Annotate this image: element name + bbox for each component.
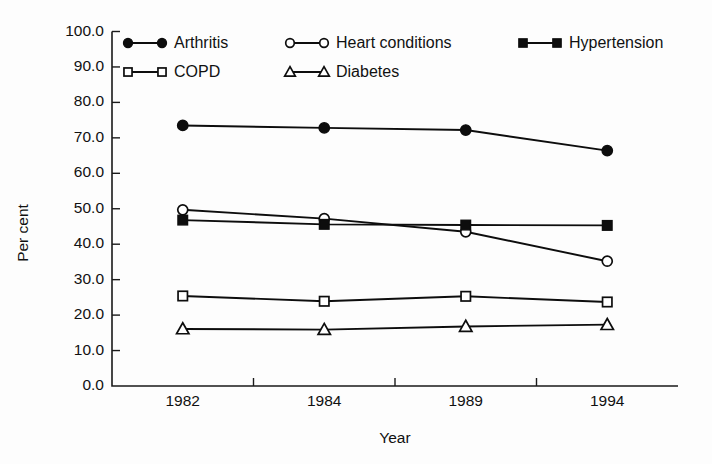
- y-axis-ticks: [112, 32, 120, 351]
- marker-open-square: [158, 68, 166, 76]
- x-axis-title: Year: [379, 429, 410, 446]
- y-tick-label: 60.0: [74, 163, 105, 180]
- legend-item-hypertension[interactable]: Hypertension: [519, 34, 663, 51]
- marker-filled-square: [319, 220, 329, 230]
- legend-label: Diabetes: [336, 63, 399, 80]
- y-axis-title: Per cent: [14, 203, 31, 261]
- marker-filled-square: [553, 39, 561, 47]
- marker-filled-circle: [319, 123, 329, 133]
- y-tick-label: 10.0: [74, 341, 105, 358]
- series-copd: [178, 291, 612, 306]
- marker-filled-circle: [602, 145, 612, 155]
- series-heart-conditions: [178, 205, 613, 266]
- line-chart-canvas: 0.010.020.030.040.050.060.070.080.090.01…: [0, 0, 712, 464]
- y-tick-label: 20.0: [74, 305, 105, 322]
- marker-filled-circle: [461, 125, 471, 135]
- marker-open-circle: [178, 205, 188, 215]
- x-axis-tick-labels: 1982198419891994: [166, 392, 625, 409]
- legend-item-diabetes[interactable]: Diabetes: [285, 63, 399, 80]
- axis-lines: [112, 32, 678, 387]
- chart-figure: 0.010.020.030.040.050.060.070.080.090.01…: [0, 0, 712, 464]
- legend-label: Arthritis: [174, 34, 228, 51]
- series-diabetes: [177, 318, 614, 334]
- marker-filled-square: [602, 221, 612, 231]
- legend-item-copd[interactable]: COPD: [124, 63, 220, 80]
- legend-item-arthritis[interactable]: Arthritis: [124, 34, 229, 51]
- marker-open-circle: [602, 256, 612, 266]
- legend-item-heart-conditions[interactable]: Heart conditions: [286, 34, 452, 51]
- legend-label: Hypertension: [569, 34, 663, 51]
- marker-filled-square: [519, 39, 527, 47]
- series-arthritis: [178, 120, 613, 156]
- y-tick-label: 0.0: [82, 376, 104, 393]
- x-tick-label: 1982: [166, 392, 200, 409]
- y-tick-label: 40.0: [74, 234, 105, 251]
- x-tick-label: 1984: [307, 392, 342, 409]
- y-axis-tick-labels: 0.010.020.030.040.050.060.070.080.090.01…: [65, 22, 104, 394]
- series-hypertension: [178, 215, 612, 230]
- chart-legend: ArthritisHeart conditionsHypertensionCOP…: [124, 34, 664, 80]
- x-tick-label: 1989: [449, 392, 483, 409]
- marker-open-square: [603, 297, 612, 306]
- series-polyline: [183, 125, 608, 150]
- y-tick-label: 100.0: [65, 22, 104, 39]
- y-tick-label: 70.0: [74, 128, 105, 145]
- y-tick-label: 50.0: [74, 199, 105, 216]
- x-axis-ticks: [254, 378, 537, 386]
- marker-open-square: [178, 291, 187, 300]
- marker-open-square: [320, 297, 329, 306]
- marker-open-square: [124, 68, 132, 76]
- marker-filled-circle: [178, 120, 188, 130]
- y-tick-label: 90.0: [74, 57, 105, 74]
- series-polyline: [183, 220, 608, 225]
- x-tick-label: 1994: [590, 392, 625, 409]
- series-polyline: [183, 210, 608, 261]
- y-tick-label: 80.0: [74, 92, 105, 109]
- legend-label: Heart conditions: [336, 34, 452, 51]
- plot-series-group: [177, 120, 614, 334]
- marker-open-circle: [286, 39, 295, 48]
- legend-label: COPD: [174, 63, 220, 80]
- series-polyline: [183, 325, 608, 330]
- marker-filled-square: [178, 215, 188, 225]
- y-tick-label: 30.0: [74, 270, 105, 287]
- marker-filled-square: [461, 220, 471, 230]
- marker-filled-circle: [158, 39, 167, 48]
- marker-open-circle: [320, 39, 329, 48]
- marker-filled-circle: [124, 39, 133, 48]
- series-polyline: [183, 296, 608, 302]
- marker-open-square: [461, 292, 470, 301]
